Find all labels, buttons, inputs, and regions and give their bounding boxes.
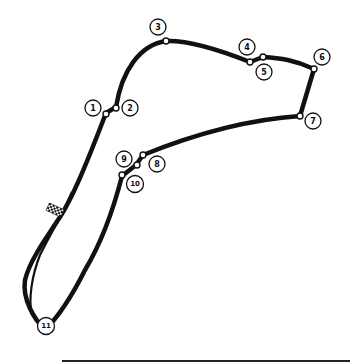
corner-label-3: 3 xyxy=(150,19,166,35)
corner-node-10 xyxy=(119,172,125,178)
corner-label-4: 4 xyxy=(239,39,255,55)
corner-node-5 xyxy=(247,59,253,65)
corner-node-2 xyxy=(113,105,119,111)
corner-label-2: 2 xyxy=(122,100,138,116)
svg-text:3: 3 xyxy=(155,23,161,32)
corner-label-9: 9 xyxy=(116,151,132,167)
corner-node-8 xyxy=(140,152,146,158)
divider-line xyxy=(62,360,350,362)
corner-node-3 xyxy=(163,38,169,44)
svg-text:10: 10 xyxy=(130,180,140,188)
svg-text:1: 1 xyxy=(90,104,96,113)
svg-text:4: 4 xyxy=(244,43,250,52)
circuit-map: 1 2 3 4 5 6 7 8 9 10 11 xyxy=(0,0,350,363)
svg-text:11: 11 xyxy=(41,322,51,330)
checkered-flag-icon xyxy=(46,203,64,217)
corner-label-5: 5 xyxy=(256,64,272,80)
corner-node-1 xyxy=(103,111,109,117)
corner-label-10: 10 xyxy=(127,176,144,193)
corner-label-1: 1 xyxy=(85,100,101,116)
corner-label-7: 7 xyxy=(305,113,321,129)
corner-label-8: 8 xyxy=(149,156,165,172)
corner-node-9 xyxy=(134,162,140,168)
corner-label-6: 6 xyxy=(314,49,330,65)
corner-label-11: 11 xyxy=(38,318,55,335)
svg-text:9: 9 xyxy=(121,155,127,164)
svg-text:6: 6 xyxy=(319,53,325,62)
svg-text:5: 5 xyxy=(261,68,267,77)
corner-node-7 xyxy=(297,113,303,119)
corner-node-6 xyxy=(311,66,317,72)
svg-text:2: 2 xyxy=(127,104,133,113)
svg-text:8: 8 xyxy=(154,160,160,169)
svg-text:7: 7 xyxy=(310,117,316,126)
corner-node-4 xyxy=(260,54,266,60)
track-outline xyxy=(25,41,314,330)
